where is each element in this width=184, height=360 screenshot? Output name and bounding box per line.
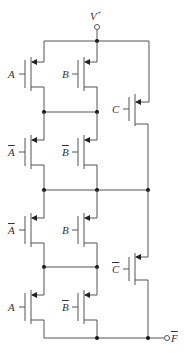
transistor-t2 — [72, 41, 97, 112]
output-label: F — [171, 333, 178, 344]
output-terminal — [165, 336, 170, 341]
gate-label-t8: C — [112, 264, 119, 275]
transistor-t10 — [72, 267, 97, 338]
gate-label-t3: C — [112, 104, 119, 115]
transistor-t6 — [19, 190, 44, 267]
circuit-diagram: V+ A B C A B A B C A B F — [0, 0, 184, 360]
gate-label-t6: A — [8, 225, 15, 236]
transistor-t5 — [72, 112, 97, 190]
transistor-t8 — [123, 190, 148, 338]
supply-terminal — [95, 25, 100, 30]
gate-label-t9: A — [8, 302, 15, 313]
transistor-t9 — [19, 267, 44, 338]
supply-label: V+ — [90, 10, 101, 22]
gate-label-t10: B — [62, 302, 69, 313]
gate-label-t1: A — [8, 69, 15, 80]
transistor-t3 — [123, 41, 149, 190]
transistor-t7 — [72, 190, 97, 267]
gate-label-t5: B — [62, 147, 69, 158]
transistor-t4 — [19, 112, 44, 190]
transistor-t1 — [19, 41, 44, 112]
circuit-wires — [0, 0, 184, 360]
gate-label-t2: B — [62, 69, 69, 80]
gate-label-t4: A — [8, 147, 15, 158]
gate-label-t7: B — [62, 225, 69, 236]
